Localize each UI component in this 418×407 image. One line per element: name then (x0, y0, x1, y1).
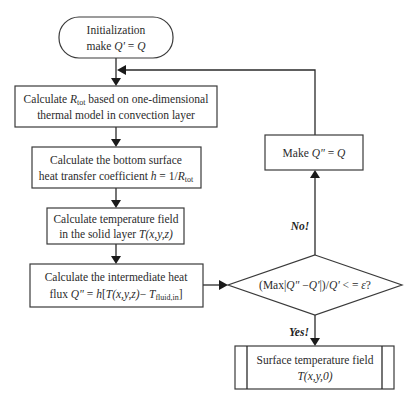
arrowhead-left-icon (117, 65, 126, 75)
node-surface-temperature-result: Surface temperature field T(x,y,0) (235, 346, 394, 389)
calc-temperature-line2: in the solid layer T(x,y,z) (59, 228, 173, 241)
result-line2: T(x,y,0) (297, 370, 332, 383)
node-calc-temperature: Calculate temperature field in the solid… (47, 208, 184, 244)
calc-temperature-line1: Calculate temperature field (53, 213, 178, 226)
calc-rtot-line2: thermal model in convection layer (37, 109, 195, 122)
result-line1: Surface temperature field (257, 354, 374, 367)
calc-flux-line1: Calculate the intermediate heat (45, 271, 189, 283)
initialization-line2: make Q' = Q (86, 40, 146, 52)
arrowhead-down-icon (111, 200, 121, 208)
node-convergence-decision: (Max|Q" −Q'|)/Q' < = ε? (228, 255, 402, 315)
edge-label-no: No! (290, 220, 310, 232)
arrowhead-up-icon (310, 170, 320, 178)
arrowhead-down-icon (310, 338, 320, 346)
calc-h-line1: Calculate the bottom surface (50, 154, 182, 166)
arrowhead-down-icon (111, 139, 121, 147)
node-initialization: Initialization make Q' = Q (59, 17, 173, 58)
initialization-line1: Initialization (87, 24, 146, 36)
node-update-flux: Make Q" = Q (265, 135, 363, 170)
node-calc-rtot: Calculate Rtot based on one-dimensional … (15, 86, 217, 127)
calc-rtot-line1: Calculate Rtot based on one-dimensional (24, 93, 209, 107)
node-calc-h: Calculate the bottom surface heat transf… (32, 147, 201, 188)
arrowhead-down-icon (111, 256, 121, 264)
edge-label-yes: Yes! (289, 326, 309, 338)
decision-condition: (Max|Q" −Q'|)/Q' < = ε? (259, 279, 371, 292)
calc-h-line2: heat transfer coefficient h = 1/Rtot (39, 170, 194, 184)
node-calc-flux: Calculate the intermediate heat flux Q" … (30, 264, 203, 307)
flowchart: Initialization make Q' = Q Calculate Rto… (0, 0, 418, 407)
update-flux-text: Make Q" = Q (283, 147, 346, 159)
arrowhead-down-icon (111, 78, 121, 86)
